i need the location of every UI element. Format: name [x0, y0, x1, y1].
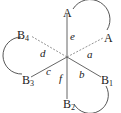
- point-b1-subscript: 1: [109, 79, 113, 88]
- point-b3-text: B: [22, 73, 30, 87]
- point-a-top: A: [63, 7, 72, 19]
- point-b3-subscript: 3: [30, 79, 34, 88]
- point-b2-subscript: 2: [71, 103, 75, 112]
- edge-d-dashed: [31, 36, 67, 57]
- point-b1-text: B: [101, 73, 109, 87]
- diagram-canvas: [0, 0, 121, 113]
- edge-label-e: e: [70, 31, 75, 42]
- point-b3: B3: [22, 74, 34, 88]
- point-b4-subscript: 4: [25, 34, 29, 43]
- point-a-right: A: [104, 32, 113, 44]
- point-b2: B2: [63, 98, 75, 112]
- point-a-top-text: A: [63, 6, 72, 20]
- edge-label-c: c: [46, 66, 51, 77]
- arc-b1-to-b2: [74, 86, 108, 113]
- point-b4-text: B: [17, 28, 25, 42]
- arc-a-to-a: [73, 0, 110, 30]
- edge-label-b: b: [79, 69, 85, 80]
- edge-label-f: f: [59, 73, 62, 84]
- point-b2-text: B: [63, 97, 71, 111]
- point-b4: B4: [17, 29, 29, 43]
- point-a-right-text: A: [104, 31, 113, 45]
- point-b1: B1: [101, 74, 113, 88]
- edge-label-d: d: [40, 48, 46, 59]
- edge-label-a: a: [87, 49, 93, 60]
